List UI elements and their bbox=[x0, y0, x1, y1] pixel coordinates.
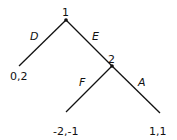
edge-f bbox=[66, 66, 112, 112]
edge-d bbox=[19, 20, 66, 66]
edge-e bbox=[66, 20, 112, 66]
node-2-label: 2 bbox=[108, 53, 115, 66]
payoff-f: -2,-1 bbox=[53, 125, 78, 138]
payoff-d: 0,2 bbox=[10, 70, 28, 83]
action-a-label: A bbox=[137, 76, 146, 89]
action-f-label: F bbox=[79, 76, 86, 89]
action-e-label: E bbox=[92, 30, 99, 43]
edge-a bbox=[112, 66, 160, 113]
action-d-label: D bbox=[30, 30, 38, 43]
game-tree: 1 2 D E F A 0,2 -2,-1 1,1 bbox=[0, 0, 177, 140]
payoff-a: 1,1 bbox=[149, 125, 167, 138]
node-1-label: 1 bbox=[62, 6, 69, 19]
